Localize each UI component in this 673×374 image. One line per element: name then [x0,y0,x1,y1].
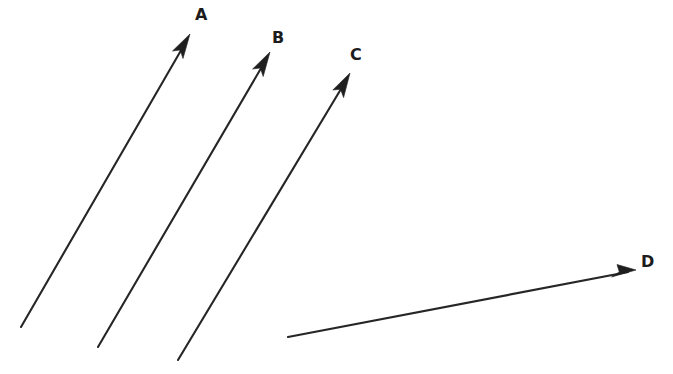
arrowhead-c [333,73,350,98]
arrowhead-d [612,265,636,278]
vector-shaft-b [98,58,267,347]
vector-label-c: C [350,47,362,63]
vector-shaft-a [21,40,187,327]
vector-diagram-figure: A B C D [0,0,673,374]
vector-shaft-c [178,79,347,360]
vector-shaft-d [288,272,628,337]
vector-group-c [178,73,350,360]
vector-label-b: B [272,30,285,46]
vector-group-d [288,265,636,338]
arrowhead-b [253,52,270,77]
arrowhead-a [173,34,191,59]
vector-group-a [21,34,190,327]
vector-label-a: A [195,7,208,23]
vector-label-d: D [641,254,655,270]
vector-group-b [98,52,270,347]
vector-canvas [0,0,673,374]
